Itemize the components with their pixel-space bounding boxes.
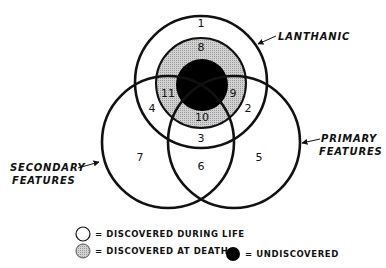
primary-features-label-line2: FEATURES [319, 146, 383, 157]
legend-white-circle-icon [76, 227, 90, 241]
lanthanic-label: LANTHANIC [278, 31, 350, 42]
legend-grey-circle-icon [76, 244, 90, 258]
region-5: 5 [256, 151, 263, 164]
primary-features-arrow [302, 139, 320, 143]
region-6: 6 [198, 160, 205, 173]
legend-undiscovered: = UNDISCOVERED [245, 249, 339, 259]
secondary-features-label-line2: FEATURES [12, 175, 76, 186]
secondary-features-label-line1: SECONDARY [10, 162, 86, 173]
region-1: 1 [198, 17, 205, 30]
region-8: 8 [198, 41, 205, 54]
legend: = DISCOVERED DURING LIFE = DISCOVERED AT… [76, 227, 339, 261]
region-9: 9 [230, 87, 237, 100]
region-2: 2 [245, 102, 252, 115]
legend-black-circle-icon [226, 247, 240, 261]
region-4: 4 [149, 102, 156, 115]
legend-discovered-at-death: = DISCOVERED AT DEATH [95, 246, 228, 256]
region-11: 11 [161, 87, 175, 100]
region-10: 10 [195, 111, 209, 124]
primary-features-label-line1: PRIMARY [321, 133, 378, 144]
region-7: 7 [137, 151, 144, 164]
venn-diagram: 1 8 11 9 10 4 2 3 7 6 5 LANTHANIC PRIMAR… [0, 0, 386, 268]
lanthanic-arrow [258, 36, 276, 44]
region-3: 3 [198, 132, 205, 145]
legend-discovered-during-life: = DISCOVERED DURING LIFE [95, 229, 245, 239]
